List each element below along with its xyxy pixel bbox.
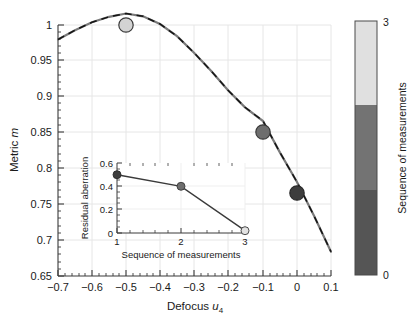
colorbar-title: Sequence of measurements	[396, 82, 408, 213]
colorbar-max-tick-label: 3	[383, 16, 389, 28]
main-y-axis-title: Metric m	[8, 128, 20, 173]
inset-y-axis-title: Residual aberration	[79, 157, 90, 239]
main-y-tick-labels: 1 0.95 0.9 0.85 0.8 0.75 0.7 0.65	[31, 19, 52, 282]
main-y-major-ticks	[58, 25, 64, 276]
colorbar-band-mid	[355, 105, 377, 190]
main-x-tick-labels: −0.7 −0.6 −0.5 −0.4 −0.3 −0.2 −0.1 0 0.1	[47, 281, 339, 293]
figure-container: 1 0.95 0.9 0.85 0.8 0.75 0.7 0.65 −0.7 −…	[0, 0, 418, 328]
colorbar-band-low	[355, 190, 377, 275]
y-tick-label: 1	[46, 19, 52, 31]
x-tick-label: −0.1	[252, 281, 274, 293]
x-tick-label: 0.1	[323, 281, 338, 293]
y-tick-label: 0.8	[37, 162, 52, 174]
y-tick-label: 0.7	[37, 234, 52, 246]
main-x-axis-title: Defocus u4	[167, 300, 224, 315]
x-tick-label: −0.5	[115, 281, 137, 293]
colorbar-min-tick-label: 0	[383, 269, 389, 281]
x-tick-label: −0.7	[47, 281, 69, 293]
y-tick-label: 0.75	[31, 198, 52, 210]
inset-y-tick-label: 0	[108, 228, 113, 239]
marker-inset-point-1	[113, 171, 121, 179]
inset-y-tick-labels: 0.6 0.4 0.2 0	[100, 158, 113, 239]
colorbar-band-high	[355, 21, 377, 105]
inset-x-axis-title: Sequence of measurements	[122, 249, 241, 260]
inset-x-tick-label: 1	[114, 236, 119, 247]
colorbar: 3 0 Sequence of measurements	[355, 16, 408, 281]
x-tick-label: −0.4	[149, 281, 171, 293]
main-grid	[58, 25, 331, 276]
x-tick-label: 0	[294, 281, 300, 293]
marker-measurement-point-3	[119, 18, 133, 32]
y-tick-label: 0.85	[31, 126, 52, 138]
marker-measurement-point-1	[290, 186, 304, 200]
inset-x-tick-label: 2	[178, 236, 183, 247]
x-tick-label: −0.3	[183, 281, 205, 293]
inset-y-tick-label: 0.6	[100, 158, 113, 169]
y-tick-label: 0.9	[37, 90, 52, 102]
x-tick-label: −0.2	[217, 281, 239, 293]
marker-inset-point-2	[177, 182, 185, 190]
inset-y-tick-label: 0.4	[100, 181, 113, 192]
inset-x-tick-label: 3	[242, 236, 247, 247]
chart-canvas: 1 0.95 0.9 0.85 0.8 0.75 0.7 0.65 −0.7 −…	[0, 0, 418, 328]
y-tick-label: 0.95	[31, 54, 52, 66]
x-tick-label: −0.6	[81, 281, 103, 293]
marker-inset-point-3	[241, 227, 249, 235]
inset-y-tick-label: 0.2	[100, 204, 113, 215]
marker-measurement-point-2	[256, 125, 270, 139]
